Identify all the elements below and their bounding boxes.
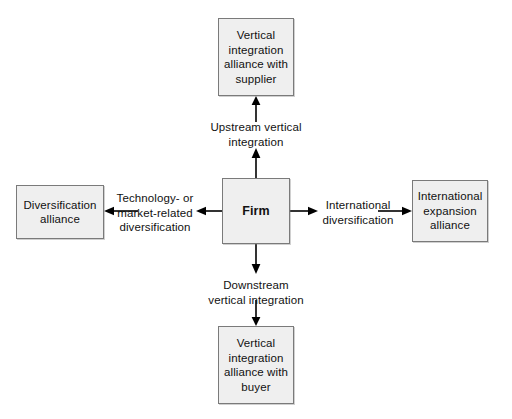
node-diversification-alliance: Diversification alliance (16, 185, 104, 239)
node-label: Diversification alliance (19, 198, 100, 227)
diagram-canvas: Vertical integration alliance with suppl… (0, 0, 512, 419)
edge-label-international-diversification: International diversification (312, 198, 404, 227)
node-vertical-integration-alliance-buyer: Vertical integration alliance with buyer (218, 326, 294, 404)
node-firm: Firm (222, 178, 290, 244)
node-label: Vertical integration alliance with suppl… (220, 28, 292, 86)
arrow-firm-to-downstream-label (248, 244, 264, 274)
arrow-upstream-to-supplier-box (248, 96, 264, 122)
edge-label-technology-or-market-related-diversification: Technology- or market-related diversific… (112, 191, 198, 235)
arrow-firm-to-diversification-label (196, 204, 224, 218)
node-vertical-integration-alliance-supplier: Vertical integration alliance with suppl… (218, 18, 294, 96)
edge-label-upstream-vertical-integration: Upstream vertical integration (200, 120, 312, 149)
node-label: Firm (238, 204, 274, 219)
arrow-firm-to-upstream-label (248, 148, 264, 178)
node-label: International expansion alliance (414, 189, 487, 233)
edge-label-downstream-vertical-integration: Downstream vertical integration (196, 278, 316, 307)
node-label: Vertical integration alliance with buyer (220, 336, 292, 394)
node-international-expansion-alliance: International expansion alliance (412, 180, 488, 242)
